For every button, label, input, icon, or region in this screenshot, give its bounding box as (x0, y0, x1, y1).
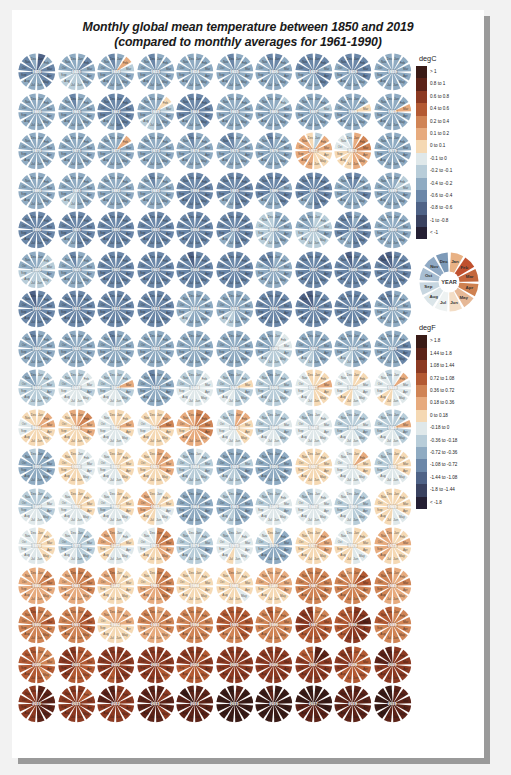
year-wheel[interactable]: JanFebMarAprMayJunJulAugSepOctNovDec1950 (17, 447, 57, 487)
year-wheel[interactable]: JanFebMarAprMayJunJulAugSepOctNovDec1900 (17, 250, 57, 290)
year-wheel[interactable]: JanFebMarAprMayJunJulAugSepOctNovDec1894 (175, 210, 215, 250)
year-wheel[interactable]: JanFebMarAprMayJunJulAugSepOctNovDec1853 (136, 52, 176, 92)
year-wheel[interactable]: JanFebMarAprMayJunJulAugSepOctNovDec2015 (215, 684, 255, 724)
year-wheel[interactable]: JanFebMarAprMayJunJulAugSepOctNovDec1858 (333, 52, 373, 92)
year-wheel[interactable]: JanFebMarAprMayJunJulAugSepOctNovDec2006 (254, 645, 294, 685)
year-wheel[interactable]: JanFebMarAprMayJunJulAugSepOctNovDec1897 (294, 210, 334, 250)
year-wheel[interactable]: JanFebMarAprMayJunJulAugSepOctNovDec1934 (175, 368, 215, 408)
year-wheel[interactable]: JanFebMarAprMayJunJulAugSepOctNovDec1954 (175, 447, 215, 487)
year-wheel[interactable]: JanFebMarAprMayJunJulAugSepOctNovDec1998 (333, 605, 373, 645)
year-wheel[interactable]: JanFebMarAprMayJunJulAugSepOctNovDec1887 (294, 171, 334, 211)
year-wheel[interactable]: JanFebMarAprMayJunJulAugSepOctNovDec1995 (215, 605, 255, 645)
year-wheel[interactable]: JanFebMarAprMayJunJulAugSepOctNovDec1996 (254, 605, 294, 645)
year-wheel[interactable]: JanFebMarAprMayJunJulAugSepOctNovDec1878 (333, 131, 373, 171)
year-wheel[interactable]: JanFebMarAprMayJunJulAugSepOctNovDec1917 (294, 289, 334, 329)
year-wheel[interactable]: JanFebMarAprMayJunJulAugSepOctNovDec1939 (373, 368, 413, 408)
year-wheel[interactable]: JanFebMarAprMayJunJulAugSepOctNovDec1963 (136, 487, 176, 527)
year-wheel[interactable]: JanFebMarAprMayJunJulAugSepOctNovDec1916 (254, 289, 294, 329)
year-wheel[interactable]: JanFebMarAprMayJunJulAugSepOctNovDec1899 (373, 210, 413, 250)
year-wheel[interactable]: JanFebMarAprMayJunJulAugSepOctNovDec1957 (294, 447, 334, 487)
year-wheel[interactable]: JanFebMarAprMayJunJulAugSepOctNovDec1942 (96, 408, 136, 448)
year-wheel[interactable]: JanFebMarAprMayJunJulAugSepOctNovDec2001 (57, 645, 97, 685)
year-wheel[interactable]: JanFebMarAprMayJunJulAugSepOctNovDec1857 (294, 52, 334, 92)
year-wheel[interactable]: JanFebMarAprMayJunJulAugSepOctNovDec1991 (57, 605, 97, 645)
year-wheel[interactable]: JanFebMarAprMayJunJulAugSepOctNovDec1956 (254, 447, 294, 487)
year-wheel[interactable]: JanFebMarAprMayJunJulAugSepOctNovDec1913 (136, 289, 176, 329)
year-wheel[interactable]: JanFebMarAprMayJunJulAugSepOctNovDec1867 (294, 92, 334, 132)
year-wheel[interactable]: JanFebMarAprMayJunJulAugSepOctNovDec1903 (136, 250, 176, 290)
year-wheel[interactable]: JanFebMarAprMayJunJulAugSepOctNovDec1937 (294, 368, 334, 408)
year-wheel[interactable]: JanFebMarAprMayJunJulAugSepOctNovDec2009 (373, 645, 413, 685)
year-wheel[interactable]: JanFebMarAprMayJunJulAugSepOctNovDec1880 (17, 171, 57, 211)
year-wheel[interactable]: JanFebMarAprMayJunJulAugSepOctNovDec1922 (96, 329, 136, 369)
year-wheel[interactable]: JanFebMarAprMayJunJulAugSepOctNovDec1895 (215, 210, 255, 250)
year-wheel[interactable]: JanFebMarAprMayJunJulAugSepOctNovDec1875 (215, 131, 255, 171)
year-wheel[interactable]: JanFebMarAprMayJunJulAugSepOctNovDec1856 (254, 52, 294, 92)
year-wheel[interactable]: JanFebMarAprMayJunJulAugSepOctNovDec1871 (57, 131, 97, 171)
year-wheel[interactable]: JanFebMarAprMayJunJulAugSepOctNovDec1860 (17, 92, 57, 132)
year-wheel[interactable]: JanFebMarAprMayJunJulAugSepOctNovDec1896 (254, 210, 294, 250)
year-wheel[interactable]: JanFebMarAprMayJunJulAugSepOctNovDec1935 (215, 368, 255, 408)
year-wheel[interactable]: JanFebMarAprMayJunJulAugSepOctNovDec1943 (136, 408, 176, 448)
year-wheel[interactable]: JanFebMarAprMayJunJulAugSepOctNovDec1877 (294, 131, 334, 171)
year-wheel[interactable]: JanFebMarAprMayJunJulAugSepOctNovDec1926 (254, 329, 294, 369)
year-wheel[interactable]: JanFebMarAprMayJunJulAugSepOctNovDec1940 (17, 408, 57, 448)
year-wheel[interactable]: JanFebMarAprMayJunJulAugSepOctNovDec1927 (294, 329, 334, 369)
year-wheel[interactable]: JanFebMarAprMayJunJulAugSepOctNovDec1990 (17, 605, 57, 645)
year-wheel[interactable]: JanFebMarAprMayJunJulAugSepOctNovDec1984 (175, 566, 215, 606)
year-wheel[interactable]: JanFebMarAprMayJunJulAugSepOctNovDec1915 (215, 289, 255, 329)
year-wheel[interactable]: JanFebMarAprMayJunJulAugSepOctNovDec1901 (57, 250, 97, 290)
year-wheel[interactable]: JanFebMarAprMayJunJulAugSepOctNovDec1905 (215, 250, 255, 290)
year-wheel[interactable]: JanFebMarAprMayJunJulAugSepOctNovDec2008 (333, 645, 373, 685)
year-wheel[interactable]: JanFebMarAprMayJunJulAugSepOctNovDec1946 (254, 408, 294, 448)
year-wheel[interactable]: JanFebMarAprMayJunJulAugSepOctNovDec1863 (136, 92, 176, 132)
year-wheel[interactable]: JanFebMarAprMayJunJulAugSepOctNovDec2012 (96, 684, 136, 724)
year-wheel[interactable]: JanFebMarAprMayJunJulAugSepOctNovDec1959 (373, 447, 413, 487)
year-wheel[interactable]: JanFebMarAprMayJunJulAugSepOctNovDec1969 (373, 487, 413, 527)
year-wheel[interactable]: JanFebMarAprMayJunJulAugSepOctNovDec1908 (333, 250, 373, 290)
year-wheel[interactable]: JanFebMarAprMayJunJulAugSepOctNovDec1859 (373, 52, 413, 92)
year-wheel[interactable]: JanFebMarAprMayJunJulAugSepOctNovDec1949 (373, 408, 413, 448)
year-wheel[interactable]: JanFebMarAprMayJunJulAugSepOctNovDec1879 (373, 131, 413, 171)
year-wheel[interactable]: JanFebMarAprMayJunJulAugSepOctNovDec1918 (333, 289, 373, 329)
year-wheel[interactable]: JanFebMarAprMayJunJulAugSepOctNovDec1977 (294, 526, 334, 566)
year-wheel[interactable]: JanFebMarAprMayJunJulAugSepOctNovDec1851 (57, 52, 97, 92)
year-wheel[interactable]: JanFebMarAprMayJunJulAugSepOctNovDec1993 (136, 605, 176, 645)
year-wheel[interactable]: JanFebMarAprMayJunJulAugSepOctNovDec1864 (175, 92, 215, 132)
year-wheel[interactable]: JanFebMarAprMayJunJulAugSepOctNovDec1978 (333, 526, 373, 566)
year-wheel[interactable]: JanFebMarAprMayJunJulAugSepOctNovDec1892 (96, 210, 136, 250)
year-wheel[interactable]: JanFebMarAprMayJunJulAugSepOctNovDec1973 (136, 526, 176, 566)
year-wheel[interactable]: JanFebMarAprMayJunJulAugSepOctNovDec1941 (57, 408, 97, 448)
year-wheel[interactable]: JanFebMarAprMayJunJulAugSepOctNovDec1923 (136, 329, 176, 369)
year-wheel[interactable]: JanFebMarAprMayJunJulAugSepOctNovDec2013 (136, 684, 176, 724)
year-wheel[interactable]: JanFebMarAprMayJunJulAugSepOctNovDec1910 (17, 289, 57, 329)
year-wheel[interactable]: JanFebMarAprMayJunJulAugSepOctNovDec1986 (254, 566, 294, 606)
year-wheel[interactable]: JanFebMarAprMayJunJulAugSepOctNovDec1921 (57, 329, 97, 369)
year-wheel[interactable]: JanFebMarAprMayJunJulAugSepOctNovDec1983 (136, 566, 176, 606)
year-wheel[interactable]: JanFebMarAprMayJunJulAugSepOctNovDec1932 (96, 368, 136, 408)
year-wheel[interactable]: JanFebMarAprMayJunJulAugSepOctNovDec2017 (294, 684, 334, 724)
year-wheel[interactable]: JanFebMarAprMayJunJulAugSepOctNovDec1854 (175, 52, 215, 92)
year-wheel[interactable]: JanFebMarAprMayJunJulAugSepOctNovDec1945 (215, 408, 255, 448)
year-wheel[interactable]: JanFebMarAprMayJunJulAugSepOctNovDec1886 (254, 171, 294, 211)
year-wheel[interactable]: JanFebMarAprMayJunJulAugSepOctNovDec1909 (373, 250, 413, 290)
year-wheel[interactable]: JanFebMarAprMayJunJulAugSepOctNovDec2007 (294, 645, 334, 685)
year-wheel[interactable]: JanFebMarAprMayJunJulAugSepOctNovDec1902 (96, 250, 136, 290)
year-wheel[interactable]: JanFebMarAprMayJunJulAugSepOctNovDec1931 (57, 368, 97, 408)
year-wheel[interactable]: JanFebMarAprMayJunJulAugSepOctNovDec2004 (175, 645, 215, 685)
year-wheel[interactable]: JanFebMarAprMayJunJulAugSepOctNovDec1975 (215, 526, 255, 566)
year-wheel[interactable]: JanFebMarAprMayJunJulAugSepOctNovDec1988 (333, 566, 373, 606)
year-wheel[interactable]: JanFebMarAprMayJunJulAugSepOctNovDec1850 (17, 52, 57, 92)
year-wheel[interactable]: JanFebMarAprMayJunJulAugSepOctNovDec1872 (96, 131, 136, 171)
year-wheel[interactable]: JanFebMarAprMayJunJulAugSepOctNovDec1906 (254, 250, 294, 290)
year-wheel[interactable]: JanFebMarAprMayJunJulAugSepOctNovDec2000 (17, 645, 57, 685)
year-wheel[interactable]: JanFebMarAprMayJunJulAugSepOctNovDec1925 (215, 329, 255, 369)
year-wheel[interactable]: JanFebMarAprMayJunJulAugSepOctNovDec2018 (333, 684, 373, 724)
year-wheel[interactable]: JanFebMarAprMayJunJulAugSepOctNovDec1911 (57, 289, 97, 329)
year-wheel[interactable]: JanFebMarAprMayJunJulAugSepOctNovDec1982 (96, 566, 136, 606)
year-wheel[interactable]: JanFebMarAprMayJunJulAugSepOctNovDec1882 (96, 171, 136, 211)
year-wheel[interactable]: JanFebMarAprMayJunJulAugSepOctNovDec1870 (17, 131, 57, 171)
year-wheel[interactable]: JanFebMarAprMayJunJulAugSepOctNovDec1929 (373, 329, 413, 369)
year-wheel[interactable]: JanFebMarAprMayJunJulAugSepOctNovDec2011 (57, 684, 97, 724)
year-wheel[interactable]: JanFebMarAprMayJunJulAugSepOctNovDec1951 (57, 447, 97, 487)
